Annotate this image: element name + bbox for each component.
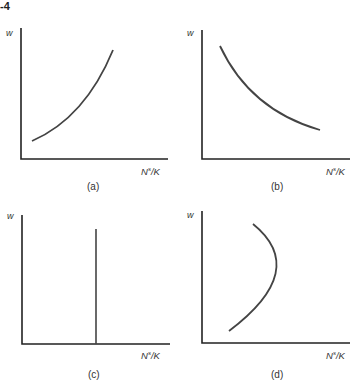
- panel-a-y-label: w: [6, 28, 13, 38]
- panel-b-curve: [220, 46, 320, 130]
- panel-b-caption: (b): [271, 181, 283, 192]
- panel-a-caption: (a): [87, 181, 99, 192]
- panel-a-x-label: Ns/K: [141, 166, 160, 177]
- panel-c-x-label: Ns/K: [141, 350, 160, 361]
- panel-d-axes: [202, 211, 350, 343]
- panel-a-axes: [21, 28, 168, 159]
- panel-d-caption: (d): [271, 369, 283, 380]
- panel-b-x-label: Ns/K: [326, 166, 345, 177]
- panel-c-y-label: w: [7, 211, 14, 221]
- figure-graphics: [0, 0, 352, 389]
- panel-d-x-label: Ns/K: [326, 350, 345, 361]
- panel-b-y-label: w: [187, 28, 194, 38]
- panel-d-y-label: w: [187, 210, 194, 220]
- panel-c-caption: (c): [88, 369, 100, 380]
- panel-b-axes: [202, 30, 350, 159]
- panel-d-curve: [229, 224, 277, 331]
- panel-a-curve: [32, 50, 113, 141]
